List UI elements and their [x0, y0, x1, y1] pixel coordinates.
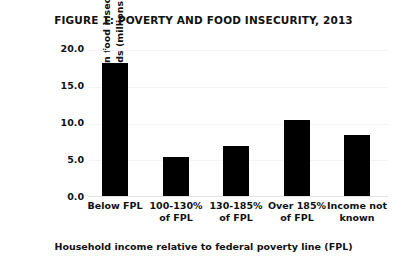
x-tick-label-0-line-1: Below FPL [85, 200, 145, 212]
y-axis-tick-labels: 0.0 5.0 10.0 15.0 20.0 [44, 50, 84, 197]
plot-area [88, 50, 388, 197]
x-tick-label-4: Income not known [327, 200, 387, 224]
bar-130-185-fpl [223, 146, 249, 197]
x-axis-tick-labels: Below FPL 100-130% of FPL 130-185% of FP… [88, 200, 388, 234]
x-tick-label-3: Over 185% of FPL [267, 200, 327, 224]
x-tick-label-1: 100-130% of FPL [146, 200, 206, 224]
y-axis-title: Individuals in food insecure households … [14, 0, 42, 68]
gridline-15 [88, 87, 388, 88]
x-axis-line [88, 196, 388, 197]
x-tick-label-4-line-2: known [327, 212, 387, 224]
x-tick-label-1-line-2: of FPL [146, 212, 206, 224]
y-tick-label-0: 0.0 [50, 192, 84, 202]
x-tick-label-2: 130-185% of FPL [206, 200, 266, 224]
bar-100-130-fpl [163, 157, 189, 197]
bar-income-not-known [344, 135, 370, 197]
y-tick-label-20: 20.0 [50, 44, 84, 54]
y-tick-label-5: 5.0 [50, 155, 84, 165]
y-tick-label-10: 10.0 [50, 118, 84, 128]
gridline-10 [88, 124, 388, 125]
x-tick-label-2-line-1: 130-185% [206, 200, 266, 212]
chart-title: FIGURE 1: POVERTY AND FOOD INSECURITY, 2… [0, 14, 407, 26]
x-tick-label-3-line-2: of FPL [267, 212, 327, 224]
y-tick-label-15: 15.0 [50, 81, 84, 91]
figure-container: FIGURE 1: POVERTY AND FOOD INSECURITY, 2… [0, 0, 407, 264]
x-tick-label-3-line-1: Over 185% [267, 200, 327, 212]
x-tick-label-4-line-1: Income not [327, 200, 387, 212]
x-tick-label-2-line-2: of FPL [206, 212, 266, 224]
x-tick-label-0: Below FPL [85, 200, 145, 212]
gridline-20 [88, 50, 388, 51]
bar-over-185-fpl [284, 120, 310, 197]
x-axis-title: Household income relative to federal pov… [0, 241, 407, 252]
x-tick-label-1-line-1: 100-130% [146, 200, 206, 212]
bar-below-fpl [102, 63, 128, 198]
